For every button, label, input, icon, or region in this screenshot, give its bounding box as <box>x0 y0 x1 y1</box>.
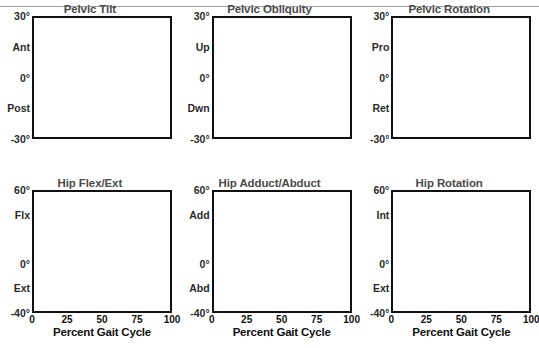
plot-area <box>212 16 352 139</box>
y-tick-label: Post <box>7 103 30 114</box>
y-axis: -30°Ret0°Pro30° <box>359 16 389 139</box>
y-tick-label: 60° <box>373 185 389 196</box>
y-axis: -40°Ext0°Flx60° <box>0 190 30 313</box>
chart-panel: Hip Rotation-40°Ext0°Int60°0255075100Per… <box>359 174 539 348</box>
y-tick-label: 0° <box>20 72 30 83</box>
x-tick-label: 0 <box>389 315 395 325</box>
x-axis-title: Percent Gait Cycle <box>32 326 172 338</box>
plot-frame <box>32 16 172 139</box>
plot-frame <box>32 190 172 313</box>
gait-report-figure: Pelvic Tilt-30°Post0°Ant30°Pelvic Obliqu… <box>0 0 539 348</box>
plot-area <box>32 16 172 139</box>
x-tick-label: 25 <box>421 315 432 325</box>
x-tick-label: 0 <box>29 315 35 325</box>
plot-area <box>391 190 531 313</box>
y-tick-label: Dwn <box>187 103 209 114</box>
y-tick-label: 30° <box>14 11 30 22</box>
y-tick-label: -30° <box>370 134 389 145</box>
x-tick-label: 50 <box>276 315 287 325</box>
x-tick-label: 100 <box>164 315 181 325</box>
x-tick-label: 0 <box>209 315 215 325</box>
y-tick-label: Ret <box>372 103 389 114</box>
plot-frame <box>391 16 531 139</box>
y-tick-label: 0° <box>379 72 389 83</box>
y-tick-label: Flx <box>15 209 30 220</box>
plot-frame <box>212 190 352 313</box>
chart-panel: Pelvic Tilt-30°Post0°Ant30° <box>0 0 180 174</box>
x-axis-title: Percent Gait Cycle <box>391 326 531 338</box>
x-tick-label: 100 <box>343 315 360 325</box>
plot-frame <box>391 190 531 313</box>
y-tick-label: Ext <box>14 283 30 294</box>
y-axis: -40°Ext0°Int60° <box>359 190 389 313</box>
y-tick-label: Int <box>377 209 390 220</box>
y-tick-label: -30° <box>11 134 30 145</box>
y-tick-label: Abd <box>189 283 209 294</box>
y-tick-label: 0° <box>379 259 389 270</box>
y-tick-label: Ant <box>13 42 31 53</box>
plot-frame <box>212 16 352 139</box>
x-tick-label: 25 <box>241 315 252 325</box>
y-tick-label: 60° <box>14 185 30 196</box>
x-tick-label: 50 <box>96 315 107 325</box>
x-axis-title: Percent Gait Cycle <box>212 326 352 338</box>
chart-panel: Pelvic Rotation-30°Ret0°Pro30° <box>359 0 539 174</box>
plot-area <box>391 16 531 139</box>
y-tick-label: 30° <box>373 11 389 22</box>
y-tick-label: -40° <box>190 308 209 319</box>
y-tick-label: Add <box>189 209 209 220</box>
y-tick-label: Pro <box>372 42 390 53</box>
x-tick-label: 75 <box>131 315 142 325</box>
y-tick-label: -40° <box>11 308 30 319</box>
y-tick-label: 30° <box>194 11 210 22</box>
plot-area <box>212 190 352 313</box>
y-axis: -40°Abd0°Add60° <box>180 190 210 313</box>
y-tick-label: -30° <box>190 134 209 145</box>
chart-panel: Pelvic Obliquity-30°Dwn0°Up30° <box>180 0 360 174</box>
x-tick-label: 25 <box>61 315 72 325</box>
y-tick-label: 0° <box>20 259 30 270</box>
chart-panel: Hip Flex/Ext-40°Ext0°Flx60°0255075100Per… <box>0 174 180 348</box>
y-tick-label: Ext <box>373 283 389 294</box>
chart-panel: Hip Adduct/Abduct-40°Abd0°Add60°02550751… <box>180 174 360 348</box>
y-tick-label: Up <box>196 42 210 53</box>
x-tick-label: 75 <box>491 315 502 325</box>
x-tick-label: 50 <box>456 315 467 325</box>
x-tick-label: 100 <box>523 315 539 325</box>
y-tick-label: 0° <box>200 259 210 270</box>
y-tick-label: -40° <box>370 308 389 319</box>
y-tick-label: 0° <box>200 72 210 83</box>
y-tick-label: 60° <box>194 185 210 196</box>
panel-grid: Pelvic Tilt-30°Post0°Ant30°Pelvic Obliqu… <box>0 0 539 348</box>
plot-area <box>32 190 172 313</box>
y-axis: -30°Dwn0°Up30° <box>180 16 210 139</box>
x-tick-label: 75 <box>311 315 322 325</box>
y-axis: -30°Post0°Ant30° <box>0 16 30 139</box>
